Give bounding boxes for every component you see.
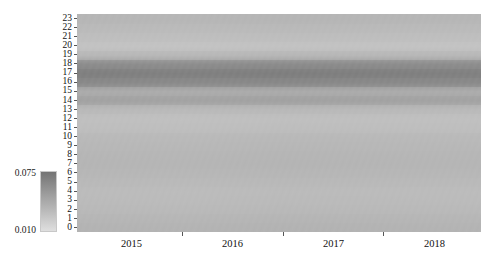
heatmap-image — [77, 14, 481, 232]
x-tick-label: 2017 — [323, 239, 344, 250]
x-tick-label: 2018 — [424, 239, 445, 250]
x-tick-label: 2016 — [222, 239, 243, 250]
x-axis: 2015201620172018 — [77, 232, 481, 262]
x-tick-mark — [283, 232, 284, 236]
x-tick-mark — [383, 232, 384, 236]
y-axis: 23222120191817161514131211109876543210 — [0, 14, 77, 232]
heatmap-figure: 0.075 0.010 2322212019181716151413121110… — [0, 0, 492, 264]
x-tick-mark — [182, 232, 183, 236]
y-tick-label: 0 — [67, 223, 74, 233]
plot-area — [77, 14, 481, 232]
x-tick-label: 2015 — [121, 239, 142, 250]
